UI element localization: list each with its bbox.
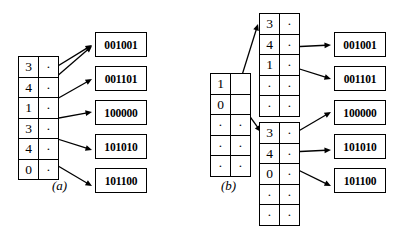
index-key-cell: 0 (19, 160, 39, 180)
index-row: 4· (260, 35, 299, 56)
index-row: 1· (19, 98, 58, 119)
index-row: 4· (260, 144, 299, 165)
index-row: ·· (211, 136, 250, 157)
arrow-a-row3-to-001101-head (85, 79, 92, 85)
index-pointer-cell: · (39, 119, 58, 139)
arrow-b-leafbottom-row1-to-100000-head (324, 112, 331, 118)
index-key-cell: · (260, 76, 280, 96)
index-row: 3· (19, 119, 58, 140)
arrow-b-leaftop-row3-to-001101-head (324, 74, 331, 80)
index-pointer-cell: · (280, 164, 299, 184)
index-row: 0· (19, 160, 58, 180)
arrow-a-row4-to-100000-head (85, 110, 92, 116)
index-pointer-cell: · (231, 156, 250, 176)
index-pointer-cell: · (39, 98, 58, 118)
arrow-b-leafbottom-row3-to-101100-head (324, 181, 331, 186)
arrow-a-row2-to-001001-head (85, 46, 92, 52)
index-row: ·· (260, 96, 299, 116)
index-row: 4· (19, 78, 58, 99)
index-row: 4· (19, 139, 58, 160)
index-pointer-cell: · (231, 115, 250, 135)
index-key-cell: 4 (260, 144, 280, 164)
index-key-cell: · (211, 156, 231, 176)
record-box: 001001 (95, 32, 147, 57)
index-key-cell: 1 (211, 74, 231, 94)
arrow-a-row5-to-101010-head (85, 145, 92, 151)
record-box: 001101 (334, 66, 386, 91)
second-level-index-table-top: 3·4·1····· (259, 13, 300, 117)
index-row: 1· (260, 55, 299, 76)
index-pointer-cell: · (39, 139, 58, 159)
index-key-cell: 4 (19, 139, 39, 159)
index-row: 3· (19, 57, 58, 78)
index-key-cell: 0 (260, 164, 280, 184)
root-index-table: 10······ (210, 73, 251, 177)
index-key-cell: · (260, 185, 280, 205)
record-box: 001001 (334, 32, 386, 57)
record-box: 101010 (334, 134, 386, 159)
flat-index-table: 3·4·1·3·4·0· (18, 56, 59, 180)
index-pointer-cell: · (280, 76, 299, 96)
index-key-cell: 3 (19, 119, 39, 139)
index-pointer-cell: · (39, 57, 58, 77)
index-row: 3· (260, 14, 299, 35)
index-pointer-cell: · (280, 55, 299, 75)
panel-label-a: (a) (52, 178, 67, 194)
index-pointer-cell: · (39, 78, 58, 98)
index-pointer-cell (231, 95, 250, 115)
index-row: 0 (211, 95, 250, 116)
index-key-cell: 0 (211, 95, 231, 115)
record-box: 100000 (334, 100, 386, 125)
index-row: 1 (211, 74, 250, 95)
index-pointer-cell (231, 74, 250, 94)
index-pointer-cell: · (280, 35, 299, 55)
index-row: 0· (260, 164, 299, 185)
arrow-a-row6-to-101100-head (85, 180, 92, 186)
index-key-cell: · (260, 205, 280, 225)
second-level-index-table-bottom: 3·4·0····· (259, 122, 300, 226)
index-pointer-cell: · (280, 96, 299, 116)
arrow-b-leafbottom-row2-to-101010-head (324, 147, 331, 153)
record-box: 101100 (95, 168, 147, 193)
record-box: 101100 (334, 168, 386, 193)
index-key-cell: 3 (260, 14, 280, 34)
index-row: ·· (211, 156, 250, 176)
arrow-b-leaftop-row2-to-001001-head (324, 42, 331, 48)
index-row: ·· (260, 205, 299, 225)
index-pointer-cell: · (231, 136, 250, 156)
index-pointer-cell: · (280, 144, 299, 164)
index-key-cell: 4 (260, 35, 280, 55)
index-pointer-cell: · (280, 123, 299, 143)
record-box: 100000 (95, 100, 147, 125)
index-row: ·· (260, 185, 299, 206)
arrow-b-root-row1-to-leaf-top-head (253, 24, 259, 31)
index-pointer-cell: · (280, 14, 299, 34)
index-key-cell: 1 (19, 98, 39, 118)
record-box: 101010 (95, 134, 147, 159)
index-row: ·· (260, 76, 299, 97)
index-key-cell: · (211, 115, 231, 135)
figure-root: 3·4·1·3·4·0·0010010011011000001010101011… (0, 0, 397, 236)
index-key-cell: 4 (19, 78, 39, 98)
index-pointer-cell: · (39, 160, 58, 180)
index-row: 3· (260, 123, 299, 144)
index-key-cell: 1 (260, 55, 280, 75)
index-key-cell: · (260, 96, 280, 116)
record-box: 001101 (95, 66, 147, 91)
index-pointer-cell: · (280, 205, 299, 225)
index-row: ·· (211, 115, 250, 136)
panel-label-b: (b) (221, 178, 236, 194)
index-key-cell: 3 (260, 123, 280, 143)
arrow-a-row1-to-001001-head (85, 45, 92, 51)
index-key-cell: · (211, 136, 231, 156)
index-key-cell: 3 (19, 57, 39, 77)
index-pointer-cell: · (280, 185, 299, 205)
